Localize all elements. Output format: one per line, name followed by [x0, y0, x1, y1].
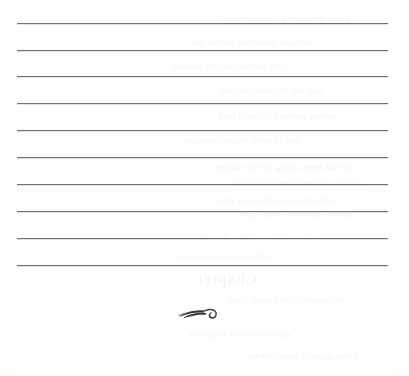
rule-line — [17, 76, 388, 77]
rule-line — [17, 50, 388, 51]
rule-line — [17, 184, 388, 185]
rule-line — [17, 157, 388, 158]
rule-line — [17, 265, 388, 266]
calligraphic-swash-flourish-icon — [176, 300, 224, 326]
rule-line — [17, 238, 388, 239]
rule-line — [17, 211, 388, 212]
scanned-page: Chapter a man who wanted to know the wor… — [0, 0, 409, 376]
rule-line — [17, 103, 388, 104]
rule-line — [17, 130, 388, 131]
rule-line — [17, 23, 388, 24]
